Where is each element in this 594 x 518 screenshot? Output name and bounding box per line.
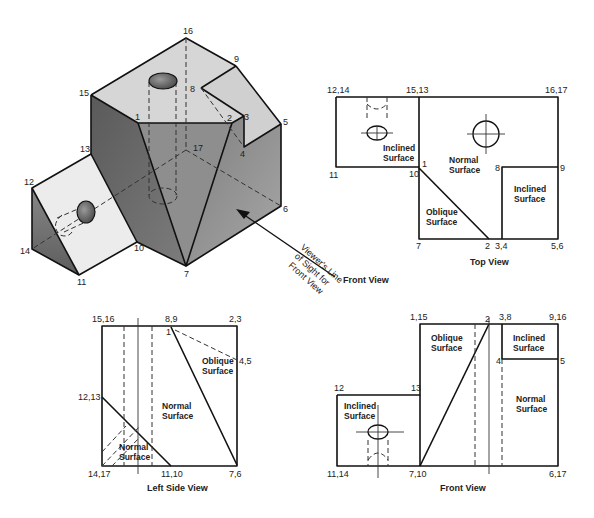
vertex-10: 10	[134, 243, 144, 253]
left-vertex-11-10: 11,10	[161, 469, 183, 479]
top-vertex-11: 11	[329, 170, 338, 180]
front-vertex-5: 5	[560, 356, 565, 366]
top-vertex-2: 2	[485, 241, 490, 251]
top-vertex-5-6: 5,6	[551, 241, 564, 251]
top-inclined-left-1: Inclined	[383, 143, 415, 153]
left-vertex-4-5: 4,5	[239, 356, 252, 366]
vertex-12: 12	[24, 177, 34, 187]
front-normal-1: Normal	[516, 394, 545, 404]
vertex-16: 16	[183, 26, 193, 36]
vertex-9: 9	[234, 54, 239, 64]
top-view: Inclined Surface Normal Surface Inclined…	[327, 85, 568, 267]
left-oblique-1: Oblique	[202, 356, 234, 366]
front-inclined-top-1: Inclined	[513, 333, 545, 343]
vertex-11: 11	[77, 277, 86, 287]
front-vertex-2: 2	[485, 314, 490, 324]
top-vertex-7: 7	[416, 241, 421, 251]
top-vertex-16-17: 16,17	[545, 85, 568, 95]
left-vertex-12-13: 12,13	[78, 392, 101, 402]
left-side-view: Oblique Surface Normal Surface Normal Su…	[78, 314, 252, 493]
front-oblique-2: Surface	[431, 343, 462, 353]
front-normal-2: Surface	[516, 404, 547, 414]
top-normal-1: Normal	[449, 155, 478, 165]
front-vertex-11-14: 11,14	[327, 469, 349, 479]
front-vertex-3-8: 3,8	[499, 312, 512, 322]
top-inclined-left-2: Surface	[383, 153, 414, 163]
vertex-7: 7	[184, 269, 189, 279]
front-view-caption: Front View	[440, 483, 487, 493]
left-vertex-8-9: 8,9	[165, 314, 178, 324]
top-oblique-2: Surface	[426, 217, 457, 227]
vertex-5: 5	[283, 117, 288, 127]
front-inclined-left-1: Inclined	[344, 401, 376, 411]
front-vertex-9-16: 9,16	[549, 312, 567, 322]
front-vertex-1-15: 1,15	[410, 312, 428, 322]
left-vertex-2-3: 2,3	[229, 314, 242, 324]
top-vertex-3-4: 3,4	[495, 241, 508, 251]
vertex-14: 14	[20, 246, 30, 256]
front-vertex-12: 12	[334, 383, 344, 393]
front-inclined-top-2: Surface	[513, 343, 544, 353]
vertex-2: 2	[227, 113, 232, 123]
top-inclined-right-2: Surface	[514, 194, 545, 204]
isometric-view: Viewer's Line of Sight for Front View Fr…	[20, 26, 390, 296]
top-vertex-12-14: 12,14	[327, 85, 350, 95]
top-vertex-15-13: 15,13	[406, 85, 429, 95]
vertex-8: 8	[190, 84, 195, 94]
left-vertex-1: 1	[166, 327, 171, 337]
left-vertex-14-17: 14,17	[88, 469, 111, 479]
front-vertex-13: 13	[411, 383, 421, 393]
front-inclined-left-2: Surface	[344, 411, 375, 421]
left-normal-2: Surface	[162, 411, 193, 421]
top-hole	[149, 73, 177, 89]
top-vertex-1: 1	[422, 159, 427, 169]
top-normal-2: Surface	[449, 165, 480, 175]
left-normal-1: Normal	[162, 401, 191, 411]
front-oblique-1: Oblique	[431, 333, 463, 343]
front-vertex-7-10: 7,10	[409, 469, 427, 479]
left-oblique-2: Surface	[202, 366, 233, 376]
vertex-4: 4	[240, 149, 245, 159]
top-inclined-right-1: Inclined	[514, 184, 546, 194]
wedge-hole	[77, 201, 95, 223]
left-normal-bottom-2: Surface	[119, 452, 150, 462]
vertex-1: 1	[135, 112, 140, 122]
left-side-view-caption: Left Side View	[147, 483, 209, 493]
top-vertex-9: 9	[560, 163, 565, 173]
top-view-caption: Top View	[470, 257, 510, 267]
vertex-3: 3	[244, 112, 249, 122]
left-vertex-7-6: 7,6	[229, 469, 242, 479]
left-normal-bottom-1: Normal	[119, 442, 148, 452]
vertex-17: 17	[193, 143, 203, 153]
vertex-6: 6	[283, 204, 288, 214]
front-view-pointer-label: Front View	[343, 275, 390, 285]
vertex-13: 13	[80, 144, 90, 154]
front-view: Oblique Surface Inclined Surface Normal …	[327, 312, 567, 493]
front-vertex-4: 4	[496, 356, 501, 366]
top-vertex-10: 10	[409, 169, 419, 179]
top-vertex-8: 8	[495, 163, 500, 173]
left-vertex-15-16: 15,16	[92, 314, 115, 324]
top-oblique-1: Oblique	[426, 207, 458, 217]
vertex-15: 15	[79, 88, 89, 98]
orthographic-projection-diagram: Viewer's Line of Sight for Front View Fr…	[0, 0, 594, 518]
front-vertex-6-17: 6,17	[549, 469, 567, 479]
